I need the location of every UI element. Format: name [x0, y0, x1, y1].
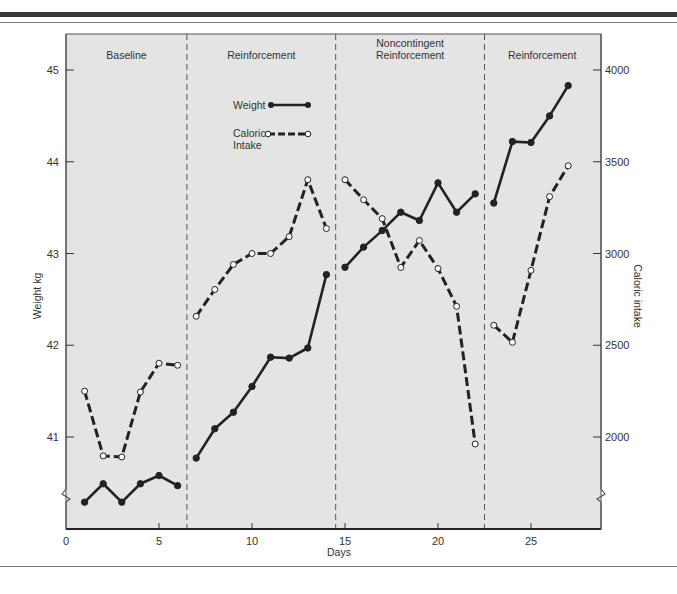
y2-tick-label: 3000 — [605, 248, 629, 260]
x-axis-title: Days — [327, 546, 351, 558]
caloric-point — [398, 264, 404, 270]
y2-tick-label: 4000 — [605, 64, 629, 76]
phase-label: Reinforcement — [227, 49, 295, 61]
weight-point — [156, 472, 162, 478]
caloric-point — [230, 262, 236, 268]
caloric-point — [193, 313, 199, 319]
caloric-point — [342, 177, 348, 183]
weight-point — [565, 82, 571, 88]
caloric-point — [528, 267, 534, 273]
legend-weight-marker — [305, 102, 311, 108]
legend-label-line: Caloric — [233, 127, 266, 139]
weight-point — [137, 481, 143, 487]
caloric-point — [472, 441, 478, 447]
caloric-point — [379, 216, 385, 222]
weight-point — [193, 455, 199, 461]
caloric-point — [119, 454, 125, 460]
weight-point — [212, 426, 218, 432]
y-tick-label: 43 — [47, 248, 59, 260]
caloric-point — [435, 266, 441, 272]
y2-axis-title: Caloric intake — [632, 264, 644, 328]
caloric-point — [547, 194, 553, 200]
caloric-point — [305, 177, 311, 183]
y2-tick-label: 2500 — [605, 339, 629, 351]
weight-point — [342, 264, 348, 270]
weight-point — [453, 209, 459, 215]
phase-label: NoncontingentReinforcement — [376, 37, 444, 61]
caloric-point — [361, 197, 367, 203]
caloric-point — [249, 251, 255, 257]
weight-point — [100, 481, 106, 487]
x-tick-label: 5 — [156, 535, 162, 547]
weight-point — [323, 271, 329, 277]
weight-point — [416, 217, 422, 223]
y2-tick-label: 2000 — [605, 431, 629, 443]
legend-label-line: Intake — [233, 139, 262, 151]
x-tick-label: 25 — [525, 535, 537, 547]
plot-area — [66, 34, 601, 529]
phase-label-line: Reinforcement — [227, 49, 295, 61]
caloric-point — [565, 163, 571, 169]
weight-point — [249, 383, 255, 389]
legend-caloric-marker — [305, 131, 311, 137]
y2-tick-label: 3500 — [605, 156, 629, 168]
x-tick-label: 10 — [246, 535, 258, 547]
weight-point — [230, 409, 236, 415]
weight-point — [81, 499, 87, 505]
weight-point — [491, 200, 497, 206]
x-tick-label: 0 — [63, 535, 69, 547]
caloric-point — [137, 389, 143, 395]
caloric-point — [82, 388, 88, 394]
weight-point — [379, 227, 385, 233]
weight-point — [472, 191, 478, 197]
weight-point — [360, 244, 366, 250]
caloric-point — [268, 251, 274, 257]
weight-point — [305, 345, 311, 351]
weight-point — [286, 355, 292, 361]
caloric-point — [100, 453, 106, 459]
weight-point — [119, 499, 125, 505]
phase-label: Reinforcement — [508, 49, 576, 61]
caloric-point — [212, 286, 218, 292]
caloric-point — [156, 360, 162, 366]
x-tick-label: 20 — [432, 535, 444, 547]
caloric-point — [416, 237, 422, 243]
phase-label: Baseline — [106, 49, 146, 61]
y-tick-label: 42 — [47, 339, 59, 351]
weight-point — [435, 180, 441, 186]
phase-label-line: Noncontingent — [376, 37, 444, 49]
weight-point — [546, 113, 552, 119]
caloric-point — [454, 303, 460, 309]
legend-label-caloric: CaloricIntake — [233, 127, 266, 151]
weight-point — [398, 209, 404, 215]
weight-point — [174, 482, 180, 488]
chart: BaselineReinforcementNoncontingentReinfo… — [0, 0, 677, 594]
y-tick-label: 41 — [47, 431, 59, 443]
phase-label-line: Reinforcement — [508, 49, 576, 61]
weight-point — [509, 138, 515, 144]
legend-label-weight: Weight — [233, 99, 266, 111]
phase-label-line: Reinforcement — [376, 49, 444, 61]
weight-point — [528, 139, 534, 145]
y-tick-label: 45 — [47, 64, 59, 76]
legend-caloric-marker — [265, 131, 271, 137]
y-tick-label: 44 — [47, 156, 59, 168]
caloric-point — [323, 226, 329, 232]
legend-weight-marker — [268, 102, 274, 108]
caloric-point — [509, 339, 515, 345]
caloric-point — [175, 362, 181, 368]
y-axis-title: Weight kg — [31, 273, 43, 320]
caloric-point — [286, 234, 292, 240]
phase-label-line: Baseline — [106, 49, 146, 61]
weight-point — [267, 354, 273, 360]
caloric-point — [491, 322, 497, 328]
